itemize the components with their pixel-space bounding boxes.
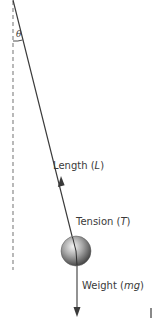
length-label: Length (L)	[53, 161, 104, 171]
weight-label-var: mg	[124, 280, 140, 291]
length-label-close: )	[100, 160, 104, 171]
weight-arrow-icon	[74, 307, 81, 317]
tension-label-text: Tension (	[76, 216, 120, 227]
angle-theta-label: θ	[16, 30, 21, 39]
weight-label-close: )	[140, 280, 144, 291]
weight-label-text: Weight (	[82, 280, 124, 291]
weight-label: Weight (mg)	[82, 281, 144, 291]
tension-label: Tension (T)	[76, 217, 130, 227]
pendulum-string	[13, 0, 76, 252]
length-label-text: Length (	[53, 160, 95, 171]
tension-label-close: )	[127, 216, 131, 227]
angle-arc	[13, 40, 23, 41]
